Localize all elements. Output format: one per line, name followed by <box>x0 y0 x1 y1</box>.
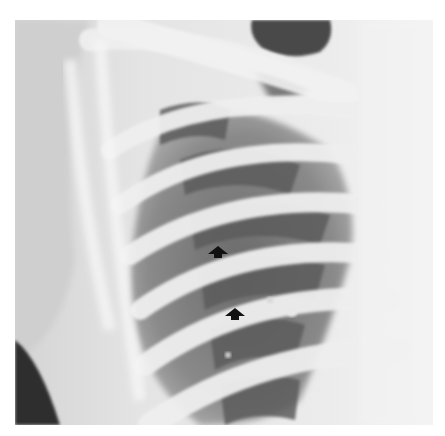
xray-svg <box>15 20 433 425</box>
radiograph-image <box>15 20 433 425</box>
